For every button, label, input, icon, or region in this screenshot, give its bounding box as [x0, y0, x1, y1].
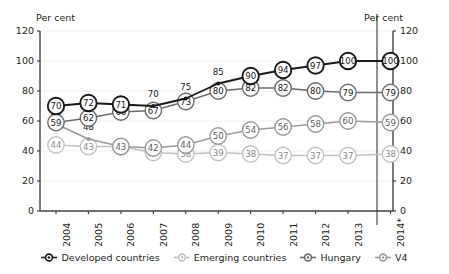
data-point-label: 42 [148, 143, 159, 153]
data-point-label: 44 [180, 140, 191, 150]
data-point-label: 50 [213, 131, 224, 141]
legend-marker-icon [375, 252, 391, 263]
data-point-label: 59 [51, 118, 62, 128]
legend-label: Hungary [320, 252, 361, 263]
data-point-label: 79 [343, 88, 354, 98]
data-point-label: 43 [115, 142, 126, 152]
data-point-label: 59 [385, 118, 396, 128]
data-point-label: 75 [180, 82, 191, 92]
x-axis-label-2014f: 2014* [395, 218, 406, 247]
right-tick-label: 0 [400, 205, 422, 216]
data-point-label: 80 [213, 86, 224, 96]
left-tick-label: 80 [12, 85, 34, 96]
left-tick-label: 40 [12, 145, 34, 156]
right-tick-label: 120 [400, 25, 422, 36]
x-axis-label-2004: 2004 [61, 223, 72, 247]
legend-item-emerging-countries[interactable]: Emerging countries [174, 252, 287, 263]
chart-container: 4443433938393837373738584843424450545658… [0, 0, 449, 274]
data-point-label: 100 [340, 56, 356, 66]
left-tick-label: 60 [12, 115, 34, 126]
data-point-label: 37 [278, 151, 289, 161]
data-point-label: 72 [83, 98, 94, 108]
legend-marker-icon [300, 252, 316, 263]
data-point-label: 90 [245, 71, 256, 81]
data-point-label: 70 [51, 101, 62, 111]
data-point-label: 62 [83, 113, 94, 123]
legend-label: V4 [395, 252, 408, 263]
data-point-label: 82 [278, 83, 289, 93]
data-point-label: 58 [310, 119, 321, 129]
data-point-label: 60 [343, 116, 354, 126]
series-developed-countries: 707271707585909497100100 [48, 53, 399, 114]
data-point-label: 56 [278, 122, 289, 132]
data-point-label: 54 [245, 125, 256, 135]
x-axis-label-2006: 2006 [125, 223, 136, 247]
x-axis-label-2010: 2010 [255, 223, 266, 247]
x-axis-label-2005: 2005 [93, 223, 104, 247]
right-tick-label: 20 [400, 175, 422, 186]
x-axis-label-2013: 2013 [353, 223, 364, 247]
x-axis-label-2007: 2007 [158, 223, 169, 247]
left-tick-label: 0 [12, 205, 34, 216]
legend-marker-icon [41, 252, 57, 263]
data-point-label: 80 [310, 86, 321, 96]
data-point-label: 79 [385, 88, 396, 98]
data-point-label: 37 [310, 151, 321, 161]
x-axis-label-2008: 2008 [190, 223, 201, 247]
left-tick-label: 120 [12, 25, 34, 36]
right-axis-unit-label: Per cent [364, 12, 403, 23]
left-axis-unit-label: Per cent [36, 12, 75, 23]
data-point-label: 100 [382, 56, 398, 66]
data-point-label: 44 [51, 140, 62, 150]
chart-legend: Developed countriesEmerging countriesHun… [0, 245, 449, 269]
x-axis-label-2009: 2009 [223, 223, 234, 247]
x-axis-label-2012: 2012 [320, 223, 331, 247]
legend-label: Developed countries [61, 252, 159, 263]
legend-label: Emerging countries [194, 252, 287, 263]
left-tick-label: 100 [12, 55, 34, 66]
right-tick-label: 60 [400, 115, 422, 126]
data-point-label: 70 [148, 89, 159, 99]
legend-item-v4[interactable]: V4 [375, 252, 408, 263]
data-point-label: 38 [245, 149, 256, 159]
data-point-label: 38 [385, 149, 396, 159]
data-point-label: 37 [343, 151, 354, 161]
data-point-label: 97 [310, 61, 321, 71]
legend-marker-icon [174, 252, 190, 263]
right-tick-label: 100 [400, 55, 422, 66]
data-point-label: 39 [213, 148, 224, 158]
data-point-label: 94 [278, 65, 289, 75]
data-point-label: 43 [83, 142, 94, 152]
data-point-label: 71 [115, 100, 126, 110]
legend-item-hungary[interactable]: Hungary [300, 252, 361, 263]
right-tick-label: 80 [400, 85, 422, 96]
left-tick-label: 20 [12, 175, 34, 186]
x-axis-label-2011: 2011 [288, 223, 299, 247]
data-point-label: 85 [213, 67, 224, 77]
right-tick-label: 40 [400, 145, 422, 156]
legend-item-developed-countries[interactable]: Developed countries [41, 252, 159, 263]
